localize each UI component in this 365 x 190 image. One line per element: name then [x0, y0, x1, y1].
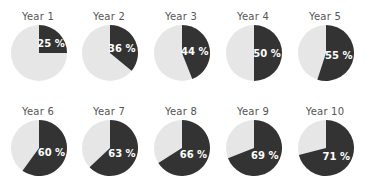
pie-title: Year 7	[73, 106, 145, 117]
pie-percent-label: 63 %	[108, 148, 135, 159]
pie-title: Year 2	[73, 11, 145, 22]
pie-percent-label: 25 %	[37, 38, 64, 49]
pie-chart: 36 %	[81, 24, 139, 82]
pie-cell: Year 10 71 %	[289, 95, 361, 185]
pie-chart: 55 %	[297, 24, 355, 82]
pie-percent-label: 36 %	[108, 43, 135, 54]
pie-title: Year 6	[2, 106, 74, 117]
pie-cell: Year 1 25 %	[2, 0, 74, 90]
pie-cell: Year 3 44 %	[145, 0, 217, 90]
pie-cell: Year 9 69 %	[217, 95, 289, 185]
pie-cell: Year 8 66 %	[145, 95, 217, 185]
pie-percent-label: 66 %	[180, 149, 207, 160]
pie-title: Year 9	[217, 106, 289, 117]
pie-cell: Year 5 55 %	[289, 0, 361, 90]
pie-chart: 66 %	[153, 119, 211, 177]
pie-chart: 60 %	[10, 119, 68, 177]
pie-percent-label: 69 %	[251, 150, 278, 161]
pie-chart: 71 %	[297, 119, 355, 177]
pie-title: Year 1	[2, 11, 74, 22]
pie-percent-label: 44 %	[181, 46, 208, 57]
pie-cell: Year 6 60 %	[2, 95, 74, 185]
pie-cell: Year 7 63 %	[73, 95, 145, 185]
pie-title: Year 4	[217, 11, 289, 22]
pie-chart: 44 %	[153, 24, 211, 82]
pie-percent-label: 55 %	[325, 50, 352, 61]
pie-chart: 25 %	[10, 24, 68, 82]
pie-percent-label: 60 %	[38, 147, 65, 158]
pie-chart: 50 %	[225, 24, 283, 82]
pie-grid: Year 1 25 % Year 2 36 % Year 3 44 % Year…	[0, 0, 365, 190]
pie-chart: 63 %	[81, 119, 139, 177]
pie-percent-label: 71 %	[323, 151, 350, 162]
pie-title: Year 10	[289, 106, 361, 117]
pie-title: Year 3	[145, 11, 217, 22]
pie-title: Year 8	[145, 106, 217, 117]
pie-title: Year 5	[289, 11, 361, 22]
pie-percent-label: 50 %	[253, 48, 280, 59]
pie-chart: 69 %	[225, 119, 283, 177]
pie-cell: Year 2 36 %	[73, 0, 145, 90]
pie-cell: Year 4 50 %	[217, 0, 289, 90]
